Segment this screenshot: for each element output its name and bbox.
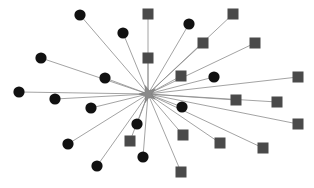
graph-node-square[interactable]: [143, 53, 154, 64]
graph-node-circle[interactable]: [183, 18, 194, 29]
graph-node-circle[interactable]: [91, 160, 102, 171]
graph-edge: [148, 24, 189, 94]
graph-edge: [19, 92, 148, 94]
graph-node-square[interactable]: [293, 119, 304, 130]
graph-node-circle[interactable]: [35, 52, 46, 63]
graph-node-square[interactable]: [143, 9, 154, 20]
graph-edge: [148, 43, 255, 94]
graph-node-square[interactable]: [258, 143, 269, 154]
graph-node-circle[interactable]: [99, 72, 110, 83]
graph-node-square[interactable]: [228, 9, 239, 20]
graph-node-circle[interactable]: [131, 118, 142, 129]
graph-node-square[interactable]: [293, 72, 304, 83]
graph-node-circle[interactable]: [176, 101, 187, 112]
network-graph-svg: [0, 0, 314, 188]
graph-edge: [41, 58, 148, 94]
graph-node-circle[interactable]: [49, 93, 60, 104]
graph-node-square[interactable]: [178, 130, 189, 141]
graph-node-circle[interactable]: [13, 86, 24, 97]
graph-edge: [148, 94, 263, 148]
graph-node-circle[interactable]: [208, 71, 219, 82]
graph-node-circle[interactable]: [117, 27, 128, 38]
graph-node-circle[interactable]: [74, 9, 85, 20]
graph-node-square[interactable]: [215, 138, 226, 149]
graph-edge: [143, 94, 148, 157]
graph-node-square[interactable]: [198, 38, 209, 49]
graph-node-square[interactable]: [250, 38, 261, 49]
network-graph-canvas: [0, 0, 314, 188]
graph-edge: [148, 43, 203, 94]
graph-node-circle[interactable]: [137, 151, 148, 162]
graph-node-square[interactable]: [125, 136, 136, 147]
graph-edge: [55, 94, 148, 99]
graph-node-square[interactable]: [272, 97, 283, 108]
graph-node-circle[interactable]: [85, 102, 96, 113]
graph-node-square[interactable]: [176, 71, 187, 82]
graph-node-square[interactable]: [231, 95, 242, 106]
graph-node-circle[interactable]: [62, 138, 73, 149]
graph-edge: [148, 77, 298, 94]
graph-node-square[interactable]: [176, 167, 187, 178]
